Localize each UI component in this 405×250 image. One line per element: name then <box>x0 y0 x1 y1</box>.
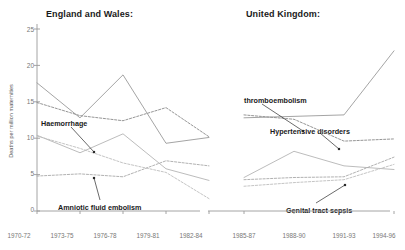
leader-marker-haemorrhage <box>93 151 95 153</box>
chart-plot-area <box>0 0 405 250</box>
series-line-thromboembolism <box>244 51 394 118</box>
series-line-hypertensive-disorders <box>37 103 209 137</box>
leader-marker-amniotic <box>93 177 95 179</box>
chart-root: England and Wales: United Kingdom: Death… <box>0 0 405 250</box>
series-line-hypertensive-disorders <box>244 115 394 141</box>
axes-group <box>34 24 394 214</box>
leader-marker-sepsis <box>344 184 346 186</box>
series-line-haemorrhage <box>244 151 394 177</box>
series-line-amniotic-fluid-embolism <box>37 161 209 177</box>
series-line-amniotic-fluid-embolism <box>244 157 394 180</box>
series-group-united-kingdom <box>244 51 394 186</box>
series-group-england-wales <box>37 75 209 199</box>
leader-marker-thromboembolism <box>302 130 304 132</box>
annotation-leader-lines <box>71 104 346 203</box>
leader-marker-hypertensive <box>338 148 340 150</box>
series-line-thromboembolism <box>37 75 209 143</box>
